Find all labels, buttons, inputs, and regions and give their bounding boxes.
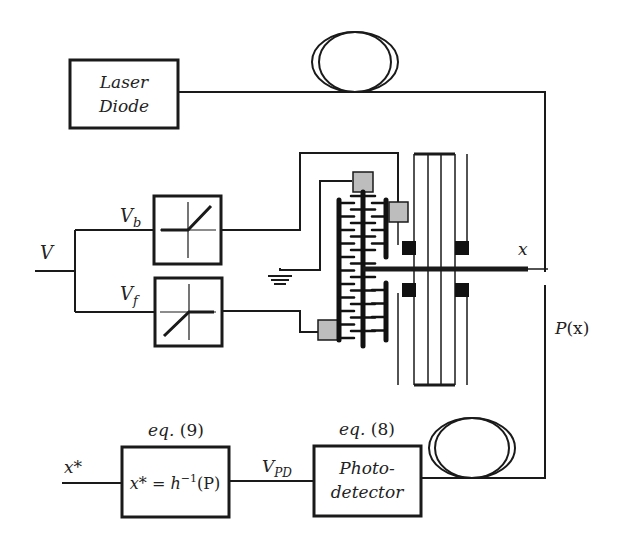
ground-icon — [268, 276, 292, 284]
input-voltage-label: V — [40, 242, 55, 263]
photodetector-block — [314, 446, 421, 516]
laser-diode-block — [70, 60, 178, 128]
anchor-pad-top — [353, 172, 373, 192]
displacement-label: x — [518, 239, 528, 259]
laser-label-line1: Laser — [99, 72, 149, 92]
eq9-label: eq. (9) — [148, 420, 204, 440]
rectifier-forward-block — [155, 278, 222, 346]
diagram-canvas: Laser Diode — [0, 0, 618, 544]
inverse-formula: x* = h−1(P) — [130, 472, 220, 493]
vpd-label: VPD — [262, 456, 292, 480]
power-label: P(x) — [554, 318, 589, 338]
estimate-label: x* — [64, 457, 83, 477]
vb-label: Vb — [120, 205, 141, 230]
rectifier-backward-block — [154, 196, 221, 264]
anchor-pad-right — [389, 202, 408, 222]
fiber-coil-top-icon — [312, 32, 398, 92]
vf-output-wire — [222, 311, 320, 332]
photodetector-label-line2: detector — [331, 482, 404, 502]
vf-label: Vf — [120, 283, 140, 308]
fiber-coil-bottom-icon — [429, 418, 515, 478]
eq8-label: eq. (8) — [339, 419, 395, 439]
anchor-pad-left — [318, 320, 338, 340]
photodetector-label-line1: Photo- — [338, 458, 395, 478]
laser-label-line2: Diode — [98, 96, 149, 116]
